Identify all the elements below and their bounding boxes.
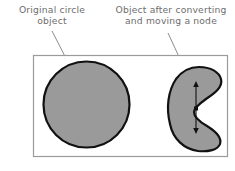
label-converted-object: Object after converting and moving a nod… xyxy=(108,4,234,26)
circle-object xyxy=(44,62,130,148)
label-original-circle: Original circle object xyxy=(4,4,100,26)
node-point-marker xyxy=(194,107,198,111)
